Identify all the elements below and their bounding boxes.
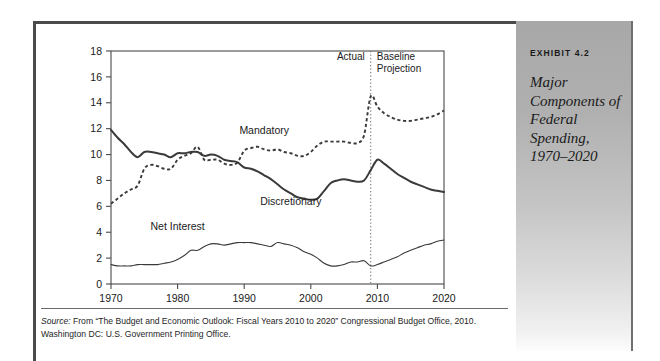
- x-tick-label-1990: 1990: [233, 292, 257, 304]
- source-text: From “The Budget and Economic Outlook: F…: [41, 316, 476, 339]
- y-tick-label-10: 10: [90, 148, 102, 160]
- series-label-mandatory: Mandatory: [239, 124, 289, 136]
- y-tick-label-18: 18: [90, 45, 102, 57]
- exhibit-sidebar: EXHIBIT 4.2 Major Components of Federal …: [516, 21, 633, 351]
- source-divider: [41, 308, 508, 309]
- x-tick-label-2000: 2000: [299, 292, 323, 304]
- y-tick-label-2: 2: [96, 252, 102, 264]
- x-tick-label-1980: 1980: [166, 292, 190, 304]
- source-lead: Source:: [41, 316, 71, 326]
- chart-container: 024681012141618197019801990200020102020A…: [33, 21, 516, 311]
- baseline-projection-label-line2: Projection: [377, 63, 421, 74]
- x-tick-label-2020: 2020: [432, 292, 456, 304]
- x-tick-label-2010: 2010: [366, 292, 390, 304]
- source-note: Source: From “The Budget and Economic Ou…: [41, 315, 511, 340]
- y-tick-label-4: 4: [96, 226, 102, 238]
- series-line-discretionary: [111, 130, 444, 200]
- y-tick-label-14: 14: [90, 96, 102, 108]
- y-tick-label-0: 0: [96, 278, 102, 290]
- spending-line-chart: 024681012141618197019801990200020102020A…: [33, 21, 516, 311]
- exhibit-title: Major Components of Federal Spending, 19…: [530, 73, 630, 166]
- y-tick-label-12: 12: [90, 122, 102, 134]
- series-label-discretionary: Discretionary: [260, 195, 322, 207]
- y-tick-label-8: 8: [96, 174, 102, 186]
- series-label-net-interest: Net Interest: [150, 220, 204, 232]
- exhibit-label: EXHIBIT 4.2: [530, 48, 590, 58]
- baseline-projection-label-line1: Baseline: [377, 51, 416, 62]
- series-line-net-interest: [111, 240, 444, 266]
- y-tick-label-6: 6: [96, 200, 102, 212]
- plot-frame: [111, 51, 444, 284]
- y-tick-label-16: 16: [90, 71, 102, 83]
- actual-label: Actual: [337, 51, 365, 62]
- x-tick-label-1970: 1970: [99, 292, 123, 304]
- series-line-mandatory: [111, 95, 444, 204]
